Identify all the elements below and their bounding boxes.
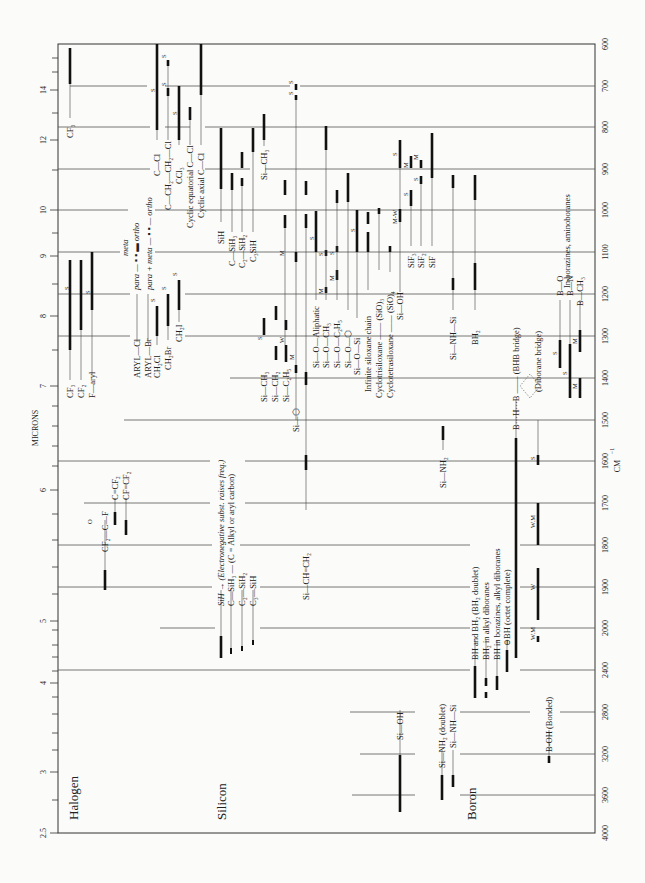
svg-text:CH₂I: CH₂I [174,324,184,342]
svg-text:S: S [402,192,409,196]
svg-text:S: S [160,82,167,86]
svg-text:S: S [287,80,294,84]
svg-text:S: S [529,456,536,460]
svg-text:BH and BH₂ (BH₂ doublet): BH and BH₂ (BH₂ doublet) [470,567,480,660]
svg-text:7: 7 [39,384,48,388]
svg-text:1300: 1300 [601,328,610,344]
svg-text:3600: 3600 [601,787,610,803]
ir-correlation-chart: 14 12 10 9 8 7 6 5 4 3 2.5 MICRONS 600 7… [0,0,645,883]
svg-text:C=CF₂: C=CF₂ [110,476,120,500]
svg-text:W: W [278,336,285,343]
svg-text:CCl₃: CCl₃ [174,167,184,184]
svg-text:1400: 1400 [601,370,610,386]
svg-text:S: S [171,111,178,115]
svg-text:700: 700 [601,80,610,92]
svg-text:3: 3 [39,770,48,774]
svg-text:2400: 2400 [601,662,610,678]
svg-text:Cyclic axial C—Cl: Cyclic axial C—Cl [196,152,206,218]
svg-text:Cyclotrisiloxane —— (SiO)₃: Cyclotrisiloxane —— (SiO)₃ [374,299,384,398]
svg-text:C₃SiH: C₃SiH [248,240,258,262]
svg-text:W.M: W.M [529,515,536,528]
halogen-bands: CF₃ S S CF₃ CF₂ F—aryl CF₂—C—F O C=CF₂ C… [63,44,206,590]
svg-text:M: M [328,275,335,281]
svg-text:C₂—SiH₂: C₂—SiH₂ [237,235,247,268]
chart-frame [58,44,595,833]
svg-text:CM: CM [613,460,622,472]
svg-text:Si—OH: Si—OH [395,292,405,320]
svg-text:8: 8 [39,314,48,318]
svg-text:meta: meta [120,239,130,256]
svg-text:4: 4 [39,681,48,685]
svg-text:Si—O—C₂H₅: Si—O—C₂H₅ [332,320,342,368]
svg-text:ARYL—Cl: ARYL—Cl [132,338,142,378]
gridlines [58,86,595,795]
svg-text:M-W: M-W [391,209,398,224]
svg-text:1100: 1100 [601,244,610,260]
svg-text:CF₃: CF₃ [65,385,75,398]
svg-text:M: M [412,154,419,160]
svg-text:(Diborane bridge): (Diborane bridge) [533,331,543,392]
svg-text:M: M [317,288,324,294]
section-halogen: Halogen [66,775,81,820]
svg-text:para — ▪ ▪ ▬ ortho: para — ▪ ▪ ▬ ortho [131,223,141,291]
svg-text:B···H···B —— (BHB bridge): B···H···B —— (BHB bridge) [511,327,521,430]
svg-text:BH in borazines, alkyl diboran: BH in borazines, alkyl diboranes [492,548,502,660]
svg-text:S: S [171,272,178,276]
svg-text:SiH → (Electronegative subst.: SiH → (Electronegative subst. raises fre… [216,459,226,606]
svg-text:800: 800 [601,121,610,133]
svg-text:SiF₂: SiF₂ [416,253,426,268]
svg-text:S: S [328,251,335,255]
svg-text:CH₂Br: CH₂Br [163,347,173,370]
svg-text:C—Cl: C—Cl [152,153,162,176]
svg-text:M: M [402,162,409,168]
svg-text:Cyclotetrasiloxane —— (SiO)₄: Cyclotetrasiloxane —— (SiO)₄ [385,291,395,398]
svg-text:Cyclic equatorial C—Cl: Cyclic equatorial C—Cl [185,145,195,228]
svg-text:S: S [561,371,568,375]
svg-text:600: 600 [601,38,610,50]
svg-text:Infinite siloxane chain: Infinite siloxane chain [363,315,373,392]
svg-text:Si—CH₂: Si—CH₂ [270,372,280,402]
svg-text:S: S [160,286,167,290]
svg-text:S: S [308,236,315,240]
boron-bands: B···H···B —— (BHB bridge) S W.M W W.M (D… [470,194,585,763]
svg-text:14: 14 [39,86,48,94]
svg-text:B—CH₃: B—CH₃ [575,277,585,306]
svg-text:C₂—SiH₂: C₂—SiH₂ [237,573,247,606]
svg-text:S: S [149,298,156,302]
svg-text:−1: −1 [609,448,615,454]
svg-text:3200: 3200 [601,746,610,762]
svg-text:Si—NH—Si: Si—NH—Si [448,704,458,748]
micron-axis [50,58,58,833]
section-labels: Halogen Silicon Boron [66,775,479,820]
microns-axis-title: MICRONS [31,410,40,446]
svg-text:Si—CH₃: Si—CH₃ [259,150,269,180]
svg-text:9: 9 [39,254,48,258]
svg-text:CF=CF₂: CF=CF₂ [121,471,131,500]
svg-text:C—CH₂—CH₂—Cl: C—CH₂—CH₂—Cl [163,141,173,210]
svg-text:S: S [63,286,70,290]
svg-text:S: S [287,91,294,95]
svg-text:Si—O—Si: Si—O—Si [352,337,362,375]
svg-text:S: S [256,336,263,340]
svg-text:12: 12 [39,136,48,144]
svg-text:S: S [551,351,558,355]
svg-text:2800: 2800 [601,704,610,720]
svg-text:SiH: SiH [216,231,226,244]
svg-text:M: M [278,250,285,256]
svg-text:Si—⬡: Si—⬡ [291,408,301,432]
svg-text:Si—CH=CH₂: Si—CH=CH₂ [301,553,311,600]
svg-text:Si—C₂H₅: Si—C₂H₅ [281,369,291,402]
svg-text:1600: 1600 [601,453,610,469]
svg-text:5: 5 [39,619,48,623]
svg-text:Si—NH₂: Si—NH₂ [438,457,448,488]
svg-text:1200: 1200 [601,286,610,302]
svg-text:S: S [160,54,167,58]
svg-text:SiF: SiF [427,256,437,268]
svg-text:1500: 1500 [601,412,610,428]
svg-text:10: 10 [39,206,48,214]
svg-text:2000: 2000 [601,620,610,636]
svg-text:1800: 1800 [601,537,610,553]
svg-text:M: M [288,354,295,360]
section-silicon: Silicon [214,783,229,820]
svg-text:⊖BH (octet complete): ⊖BH (octet complete) [502,569,512,646]
